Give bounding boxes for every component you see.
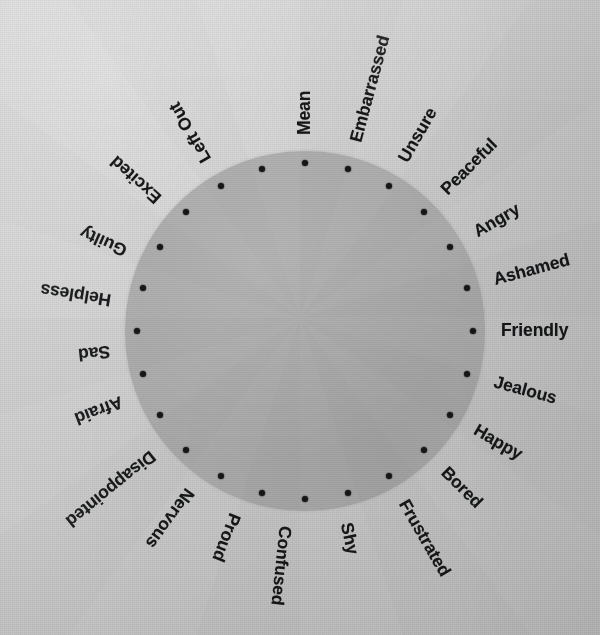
tick-dot xyxy=(259,490,265,496)
tick-dot xyxy=(302,160,308,166)
tick-dot xyxy=(386,183,392,189)
emotion-label: Happy xyxy=(470,421,525,463)
emotion-label: Guilty xyxy=(78,223,130,259)
tick-dot xyxy=(464,285,470,291)
emotion-label: Jealous xyxy=(492,373,559,407)
tick-dot xyxy=(157,244,163,250)
tick-dot xyxy=(140,285,146,291)
tick-dot xyxy=(259,166,265,172)
emotion-label: Afraid xyxy=(72,393,125,427)
tick-dot xyxy=(421,447,427,453)
emotion-label: Sad xyxy=(78,343,111,364)
tick-dot xyxy=(157,412,163,418)
emotion-label: Peaceful xyxy=(437,136,500,199)
feelings-wheel-figure: MeanEmbarrassedUnsurePeacefulAngryAshame… xyxy=(0,0,600,635)
tick-dot xyxy=(183,447,189,453)
emotion-label: Left Out xyxy=(166,99,214,165)
emotion-label: Frustrated xyxy=(395,496,453,579)
tick-dot xyxy=(218,183,224,189)
emotion-label: Friendly xyxy=(501,322,568,340)
emotion-label: Mean xyxy=(296,91,314,135)
wheel-disc xyxy=(125,151,485,511)
tick-dot xyxy=(134,328,140,334)
emotion-label: Helpless xyxy=(40,281,113,309)
emotion-label: Shy xyxy=(337,521,361,556)
emotion-label: Embarrassed xyxy=(347,33,392,144)
emotion-label: Nervous xyxy=(142,484,197,550)
tick-dot xyxy=(421,209,427,215)
emotion-label: Disappointed xyxy=(62,448,158,531)
emotion-label: Ashamed xyxy=(492,252,572,289)
tick-dot xyxy=(470,328,476,334)
emotion-label: Unsure xyxy=(395,105,440,165)
emotion-label: Bored xyxy=(437,463,485,511)
tick-dot xyxy=(302,496,308,502)
emotion-label: Angry xyxy=(470,200,522,240)
emotion-label: Confused xyxy=(267,525,293,606)
emotion-label: Proud xyxy=(209,511,243,564)
emotion-label: Excited xyxy=(108,152,165,206)
